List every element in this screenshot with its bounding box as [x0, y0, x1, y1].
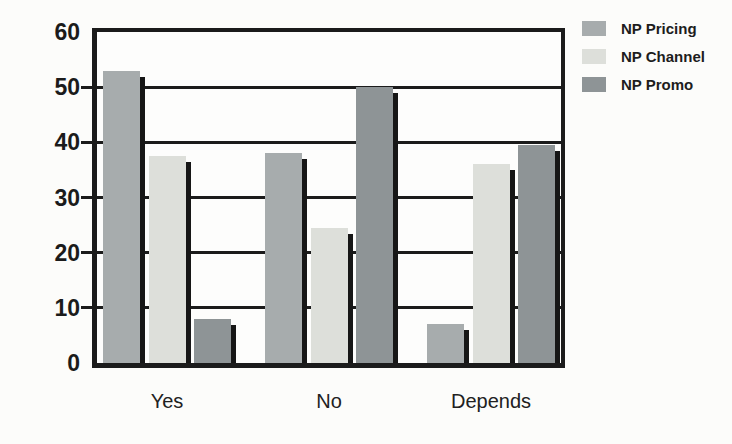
legend-item-np-channel: NP Channel	[582, 48, 705, 64]
gridline-40	[97, 141, 561, 144]
bar-np-promo-depends	[518, 145, 555, 363]
x-axis-label-yes: Yes	[82, 390, 252, 413]
y-tick-20	[81, 251, 94, 254]
bar-np-channel-yes	[149, 156, 186, 363]
y-axis-label-10: 10	[20, 296, 80, 320]
y-axis-label-30: 30	[20, 186, 80, 210]
bar-np-pricing-no	[265, 153, 302, 363]
bar-chart-figure: 0102030405060 YesNoDepends NP PricingNP …	[0, 0, 732, 444]
legend-swatch-np-pricing	[582, 21, 606, 36]
legend-label-np-channel: NP Channel	[621, 48, 705, 65]
bar-np-pricing-depends	[427, 324, 464, 363]
y-axis-label-50: 50	[20, 75, 80, 99]
legend-swatch-np-promo	[582, 77, 606, 92]
y-axis-label-60: 60	[20, 20, 80, 44]
legend-swatch-np-channel	[582, 49, 606, 64]
y-axis-label-20: 20	[20, 241, 80, 265]
bar-np-pricing-yes	[103, 71, 140, 363]
legend-label-np-promo: NP Promo	[621, 76, 693, 93]
x-axis-label-depends: Depends	[406, 390, 576, 413]
legend-item-np-pricing: NP Pricing	[582, 20, 705, 36]
gridline-50	[97, 86, 561, 89]
plot-area	[92, 28, 565, 368]
y-axis-label-0: 0	[20, 351, 80, 375]
bar-np-channel-no	[311, 228, 348, 363]
y-tick-40	[81, 141, 94, 144]
y-axis-label-40: 40	[20, 130, 80, 154]
bar-np-channel-depends	[473, 164, 510, 363]
bar-np-promo-yes	[194, 319, 231, 363]
y-tick-10	[81, 306, 94, 309]
y-tick-30	[81, 196, 94, 199]
legend: NP PricingNP ChannelNP Promo	[582, 20, 705, 104]
y-tick-50	[81, 86, 94, 89]
legend-label-np-pricing: NP Pricing	[621, 20, 697, 37]
bar-np-promo-no	[356, 87, 393, 363]
x-axis-label-no: No	[244, 390, 414, 413]
legend-item-np-promo: NP Promo	[582, 76, 705, 92]
